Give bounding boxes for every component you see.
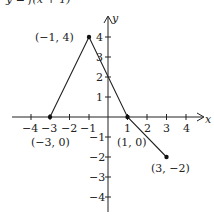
point-1-0	[125, 115, 129, 119]
y-tick-label: −4	[89, 191, 105, 204]
x-tick-label: 4	[183, 122, 190, 135]
y-axis-label: y	[111, 12, 119, 25]
point-neg1-4	[87, 35, 91, 39]
y-tick-label: −2	[89, 151, 105, 164]
point-3-neg2	[164, 155, 168, 159]
x-tick-label: 2	[144, 122, 151, 135]
point-neg3-0	[48, 115, 52, 119]
y-tick-label: 1	[96, 91, 103, 104]
y-tick-label: 4	[96, 31, 103, 44]
y-tick-label: −1	[89, 131, 105, 144]
label-neg3-0: (−3, 0)	[31, 136, 70, 149]
x-tick-label: 3	[163, 122, 170, 135]
label-1-0: (1, 0)	[117, 136, 147, 149]
label-neg1-4: (−1, 4)	[35, 31, 74, 44]
y-tick-label: −3	[89, 171, 105, 184]
graph-title: y = f(x + 1)	[5, 0, 71, 6]
graph: y = f(x + 1) x y −4 −3 −2 −1 1 2 3 4	[0, 0, 214, 219]
x-tick-label: −2	[61, 122, 77, 135]
x-tick-label: 1	[124, 122, 131, 135]
x-axis-label: x	[205, 113, 212, 126]
label-3-neg2: (3, −2)	[151, 162, 190, 175]
y-tick-label: 2	[96, 71, 103, 84]
x-tick-label: −3	[41, 122, 57, 135]
x-tick-labels: −4 −3 −2 −1 1 2 3 4	[22, 122, 190, 135]
x-tick-label: −4	[22, 122, 38, 135]
